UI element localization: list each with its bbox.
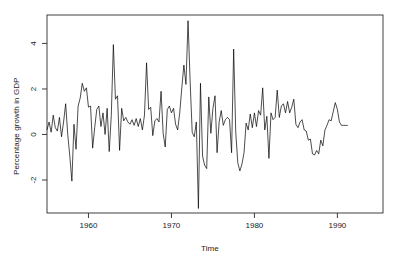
y-tick-label: 4 — [29, 41, 38, 45]
x-tick-label: 1980 — [246, 221, 264, 230]
y-tick-label: 2 — [29, 87, 38, 91]
x-tick-label: 1970 — [163, 221, 181, 230]
y-axis-title: Percentage growth in GDP — [12, 77, 21, 175]
x-tick-label: 1960 — [80, 221, 98, 230]
gdp-growth-line — [47, 21, 348, 209]
gdp-growth-time-series-figure: 1960197019801990 -2024 Percentage growth… — [0, 0, 400, 263]
x-tick-label: 1990 — [329, 221, 347, 230]
x-axis-title: Time — [201, 244, 219, 253]
data-series-group — [47, 21, 348, 209]
y-tick-label: -2 — [29, 176, 38, 183]
x-axis-tick-marks — [88, 213, 337, 218]
y-tick-label: 0 — [29, 132, 38, 136]
y-axis-tick-marks — [42, 43, 47, 180]
